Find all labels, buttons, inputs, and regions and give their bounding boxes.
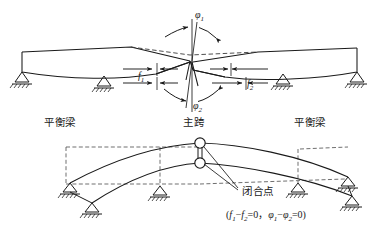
support-rr-lower [340,196,362,211]
support-l-inner [148,186,170,201]
f2-dimension [210,63,268,90]
lower-supports [58,177,362,218]
support-rr-upper [336,177,358,196]
support-ll-upper [58,183,92,203]
label-closure-point: 闭合点 [242,186,274,197]
phi1-rotation-arrows [165,27,216,38]
support-right-inner [271,74,293,90]
phi1-label: φ1 [195,10,204,23]
label-main-span: 主跨 [183,117,204,128]
closure-condition-formula: (f1−f2=0，φ1−φ2=0) [226,210,306,223]
label-left-balance-beam: 平衡梁 [44,117,76,128]
rotation-axis-line [186,19,197,112]
support-left-end [10,72,32,88]
closure-circle-lower [195,158,205,168]
engineering-diagram: φ1 φ2 f1 f2 平衡梁 主跨 平衡梁 闭合点 (f1−f2=0，φ1−φ… [0,0,379,236]
support-ll-lower [80,203,102,218]
label-right-balance-beam: 平衡梁 [294,117,326,128]
f1-label: f1 [138,71,144,84]
closure-circle-upper [195,138,205,148]
lower-structure-outline [70,143,352,203]
f2-label: f2 [247,79,253,92]
support-r-inner [286,183,308,198]
closure-link [198,147,202,159]
phi2-rotation-arrows [164,89,218,102]
phi2-label: φ2 [193,101,202,114]
support-right-end [345,72,367,88]
closure-point-hinges [195,138,205,168]
